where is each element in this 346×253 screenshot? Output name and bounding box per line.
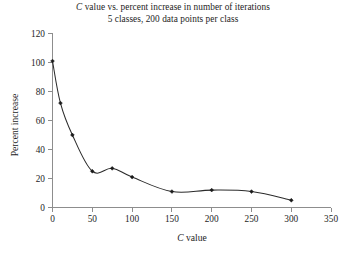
x-tick-label-250: 250 <box>245 214 259 224</box>
y-tick-label-80: 80 <box>36 87 46 97</box>
x-axis-tick-labels: 0 50 100 150 200 250 300 350 <box>50 214 338 224</box>
x-tick-label-100: 100 <box>125 214 139 224</box>
x-tick-label-0: 0 <box>50 214 55 224</box>
y-tick-label-40: 40 <box>36 145 46 155</box>
y-tick-label-60: 60 <box>36 116 46 126</box>
x-tick-label-50: 50 <box>88 214 98 224</box>
data-point-marker <box>71 133 75 137</box>
y-tick-label-0: 0 <box>40 203 45 213</box>
data-point-markers <box>51 59 294 202</box>
data-point-marker <box>210 188 214 192</box>
x-tick-label-200: 200 <box>205 214 219 224</box>
x-tick-label-150: 150 <box>165 214 179 224</box>
x-axis-title-rest: value <box>184 232 207 243</box>
y-tick-label-100: 100 <box>31 58 45 68</box>
x-axis: 0 50 100 150 200 250 300 350 C value <box>50 208 338 244</box>
data-point-marker <box>289 198 293 202</box>
data-series-group <box>51 59 294 202</box>
data-point-marker <box>250 190 254 194</box>
data-point-marker <box>130 175 134 179</box>
data-series-line <box>53 61 292 200</box>
x-axis-title: C value <box>177 232 207 243</box>
chart-figure: C value vs. percent increase in number o… <box>0 0 346 253</box>
y-tick-label-120: 120 <box>31 29 45 39</box>
data-point-marker <box>59 101 63 105</box>
y-axis-tick-labels: 0 20 40 60 80 100 120 <box>31 29 45 213</box>
y-axis: 0 20 40 60 80 100 120 Percent increase <box>9 29 53 213</box>
y-axis-title: Percent increase <box>9 94 20 157</box>
x-tick-label-300: 300 <box>284 214 298 224</box>
y-tick-label-20: 20 <box>36 174 46 184</box>
x-axis-ticks <box>53 208 332 213</box>
chart-plot-svg: 0 20 40 60 80 100 120 Percent increase <box>0 0 346 253</box>
data-point-marker <box>110 166 114 170</box>
data-point-marker <box>170 190 174 194</box>
x-tick-label-350: 350 <box>324 214 338 224</box>
